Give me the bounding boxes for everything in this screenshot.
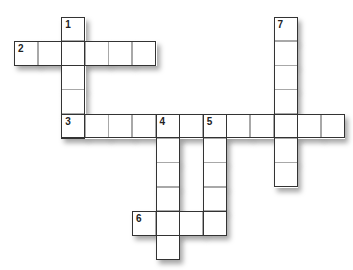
clue-number: 1 xyxy=(65,20,71,30)
crossword-cell[interactable] xyxy=(108,41,132,66)
crossword-cell[interactable]: 4 xyxy=(156,114,180,139)
crossword-cell[interactable]: 1 xyxy=(61,17,85,42)
clue-number: 7 xyxy=(278,20,284,30)
crossword-cell[interactable] xyxy=(179,211,203,236)
crossword-cell[interactable] xyxy=(274,89,298,114)
crossword-cell[interactable]: 3 xyxy=(61,114,85,139)
crossword-cell[interactable] xyxy=(250,114,274,139)
clue-number: 2 xyxy=(18,44,24,54)
clue-number: 4 xyxy=(160,117,166,127)
crossword-cell[interactable] xyxy=(108,114,132,139)
crossword-cell[interactable] xyxy=(274,65,298,90)
crossword-cell[interactable] xyxy=(274,138,298,163)
crossword-cell[interactable] xyxy=(321,114,345,139)
crossword-cell[interactable] xyxy=(132,114,156,139)
crossword-cell[interactable] xyxy=(203,211,227,236)
crossword-cell[interactable] xyxy=(156,211,180,236)
crossword-cell[interactable] xyxy=(203,187,227,212)
crossword-cell[interactable] xyxy=(156,235,180,260)
clue-number: 5 xyxy=(207,117,213,127)
crossword-cell[interactable] xyxy=(156,187,180,212)
crossword-cell[interactable] xyxy=(203,162,227,187)
clue-number: 6 xyxy=(136,214,142,224)
crossword-cell[interactable] xyxy=(85,114,109,139)
clue-number: 3 xyxy=(65,117,71,127)
crossword-cell[interactable] xyxy=(156,138,180,163)
crossword-cell[interactable] xyxy=(61,65,85,90)
crossword-cell[interactable]: 6 xyxy=(132,211,156,236)
crossword-cell[interactable] xyxy=(156,162,180,187)
crossword-cell[interactable]: 5 xyxy=(203,114,227,139)
crossword-cell[interactable] xyxy=(274,114,298,139)
crossword-cell[interactable] xyxy=(226,114,250,139)
crossword-grid: 1324567 xyxy=(0,0,353,270)
crossword-cell[interactable] xyxy=(203,138,227,163)
crossword-cell[interactable] xyxy=(274,162,298,187)
crossword-cell[interactable] xyxy=(132,41,156,66)
crossword-cell[interactable] xyxy=(274,41,298,66)
crossword-cell[interactable]: 2 xyxy=(14,41,38,66)
crossword-cell[interactable] xyxy=(297,114,321,139)
crossword-cell[interactable] xyxy=(61,41,85,66)
crossword-cell[interactable]: 7 xyxy=(274,17,298,42)
crossword-cell[interactable] xyxy=(179,114,203,139)
crossword-cell[interactable] xyxy=(85,41,109,66)
crossword-cell[interactable] xyxy=(38,41,62,66)
crossword-cell[interactable] xyxy=(61,89,85,114)
